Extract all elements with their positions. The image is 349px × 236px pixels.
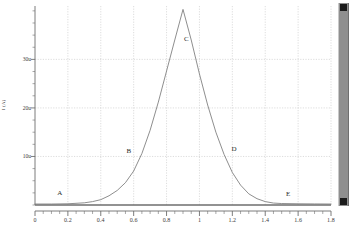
chart-figure: 00.20.40.60.811.21.41.61.8 10u20u30u I (…: [0, 0, 349, 236]
grid-horizontal: [35, 59, 331, 156]
chart-plot-area: [0, 0, 349, 236]
x-tick-label: 1.8: [327, 217, 335, 223]
x-tick-label: 1.4: [261, 217, 269, 223]
y-axis-title: I (A): [1, 100, 6, 110]
scrollbar-thumb-top[interactable]: [340, 4, 347, 11]
region-label-c: C: [184, 35, 189, 43]
x-tick-label: 1: [198, 217, 201, 223]
x-tick-label: 0.6: [130, 217, 138, 223]
vertical-scrollbar[interactable]: [338, 3, 349, 206]
y-tick-label: 10u: [12, 153, 31, 159]
x-tick-label: 0.4: [97, 217, 105, 223]
figure-caption: [60, 226, 310, 235]
grid-vertical: [68, 6, 331, 205]
x-tick-label: 0.2: [64, 217, 72, 223]
region-label-d: D: [231, 145, 236, 153]
y-tick-label: 30u: [12, 56, 31, 62]
screenshot-root: 00.20.40.60.811.21.41.61.8 10u20u30u I (…: [0, 0, 349, 236]
region-label-a: A: [57, 189, 62, 197]
x-tick-label: 1.6: [294, 217, 302, 223]
scrollbar-thumb-bottom[interactable]: [340, 198, 347, 205]
x-tick-label: 1.2: [228, 217, 236, 223]
x-tick-label: 0.8: [163, 217, 171, 223]
x-tick-label: 0: [33, 217, 36, 223]
chart-ticks: [31, 11, 331, 216]
y-tick-label: 20u: [12, 105, 31, 111]
region-label-b: B: [126, 147, 131, 155]
region-label-e: E: [286, 190, 290, 198]
